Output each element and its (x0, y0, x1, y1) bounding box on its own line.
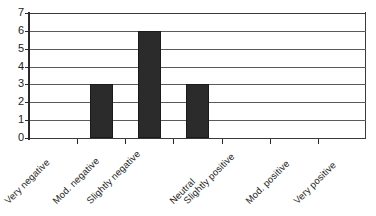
x-label-very-negative: Very negative (3, 157, 52, 206)
x-label-very-positive: Very positive (292, 160, 338, 206)
y-tick-mark-2 (25, 102, 30, 103)
y-tick-mark-5 (25, 49, 30, 50)
y-tick-mark-4 (25, 67, 30, 68)
y-tick-mark-1 (25, 120, 30, 121)
y-tick-mark-3 (25, 84, 30, 85)
y-tick-mark-7 (25, 13, 30, 14)
x-axis-category-labels: Very negativeMod. negativeSlightly negat… (0, 0, 376, 216)
y-tick-mark-6 (25, 31, 30, 32)
x-label-mod-positive: Mod. positive (244, 158, 292, 206)
bar-chart: 01234567 Very negativeMod. negativeSligh… (0, 0, 376, 216)
y-tick-mark-0 (25, 138, 30, 139)
